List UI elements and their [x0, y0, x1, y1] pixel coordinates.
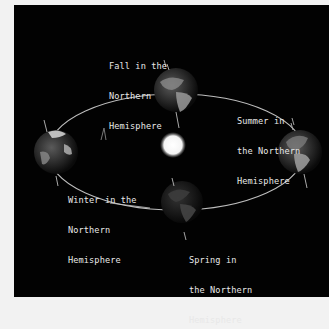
label-winter: Winter in the Northern Hemisphere [68, 175, 137, 275]
label-summer: Summer in the Northern Hemisphere [237, 96, 300, 196]
label-summer-line-1: Summer in [237, 116, 300, 126]
label-fall-line-3: Hemisphere [109, 121, 167, 131]
label-spring-line-3: Hemisphere [189, 315, 252, 325]
label-spring-line-2: the Northern [189, 285, 252, 295]
label-spring: Spring in the Northern Hemisphere [189, 235, 252, 329]
label-winter-line-2: Northern [68, 225, 137, 235]
label-fall-line-1: Fall in the [109, 61, 167, 71]
axis-marker [101, 128, 106, 140]
label-spring-line-1: Spring in [189, 255, 252, 265]
label-fall-line-2: Northern [109, 91, 167, 101]
label-fall: Fall in the Northern Hemisphere [109, 41, 167, 141]
label-summer-line-3: Hemisphere [237, 176, 300, 186]
label-winter-line-3: Hemisphere [68, 255, 137, 265]
spring-pointer [184, 232, 186, 240]
label-summer-line-2: the Northern [237, 146, 300, 156]
label-winter-line-1: Winter in the [68, 195, 137, 205]
earth-spring [161, 178, 203, 223]
